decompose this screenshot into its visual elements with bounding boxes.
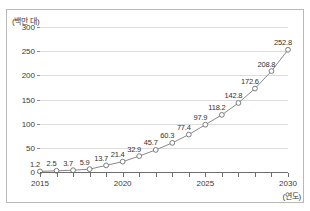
data-point-marker [253,86,258,91]
data-point-marker [137,154,142,159]
data-point-marker [120,159,125,164]
x-tick-label: 2020 [114,179,132,188]
x-axis-line [40,172,288,173]
data-point-marker [87,167,92,172]
data-point-marker [219,112,224,117]
x-tick-mark [156,173,157,177]
data-point-marker [236,101,241,106]
data-point-marker [104,163,109,168]
x-tick-label: 2015 [31,179,49,188]
y-tick-label: 100 [22,119,35,128]
x-tick-mark [172,173,173,177]
data-point-label: 208.8 [258,60,276,69]
data-point-marker [203,122,208,127]
data-point-marker [269,69,274,74]
data-point-marker [186,132,191,137]
x-tick-label: 2030 [279,179,297,188]
x-tick-mark [288,173,289,177]
data-point-label: 172.6 [241,77,259,86]
y-tick-label: 150 [22,95,35,104]
y-tick-label: 50 [26,143,35,152]
data-point-label: 45.7 [144,138,158,147]
x-tick-mark [271,173,272,177]
x-tick-mark [57,173,58,177]
data-point-label: 252.8 [274,38,292,47]
x-tick-mark [123,173,124,177]
data-point-marker [286,47,291,52]
chart-figure: (백만 대) 050100150200250300 1.22.53.75.913… [0,0,310,211]
x-tick-mark [139,173,140,177]
x-tick-mark [205,173,206,177]
y-tick-label: 250 [22,47,35,56]
data-point-label: 32.9 [127,145,141,154]
data-point-label: 142.8 [225,91,243,100]
x-tick-mark [106,173,107,177]
data-point-label: 60.3 [160,131,174,140]
data-point-label: 77.4 [177,123,191,132]
data-point-label: 3.7 [63,159,73,168]
data-point-label: 118.2 [208,103,225,112]
x-tick-label: 2025 [196,179,214,188]
x-tick-mark [73,173,74,177]
x-tick-mark [189,173,190,177]
data-point-label: 97.9 [193,113,207,122]
data-point-label: 5.9 [80,158,90,167]
data-point-label: 21.4 [111,150,125,159]
series-line [40,50,288,172]
data-point-label: 1.2 [30,160,40,169]
x-tick-mark [90,173,91,177]
data-point-label: 13.7 [94,154,108,163]
x-axis-title: (연도) [282,190,301,201]
x-tick-mark [40,173,41,177]
y-tick-label: 300 [22,23,35,32]
x-tick-mark [238,173,239,177]
data-point-marker [170,140,175,145]
data-point-marker [153,148,158,153]
plot-area: 050100150200250300 1.22.53.75.913.721.43… [40,27,288,172]
data-point-label: 2.5 [47,159,57,168]
x-tick-mark [222,173,223,177]
line-series [40,27,288,172]
y-tick-label: 200 [22,71,35,80]
x-tick-mark [255,173,256,177]
